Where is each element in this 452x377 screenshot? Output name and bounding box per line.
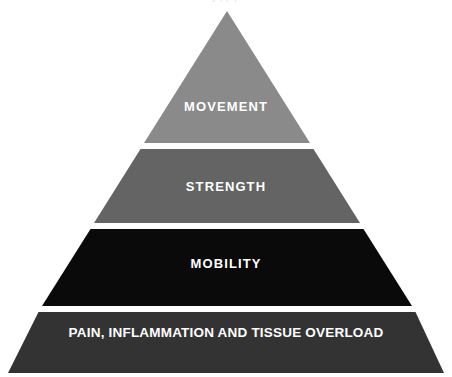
pyramid-label-mobility: MOBILITY — [0, 256, 452, 271]
pyramid-label-strength: STRENGTH — [0, 179, 452, 194]
pyramid-level-movement[interactable] — [144, 11, 310, 143]
pyramid-level-base[interactable] — [8, 312, 444, 373]
pyramid-label-movement: MOVEMENT — [0, 99, 452, 114]
pyramid-label-base: PAIN, INFLAMMATION AND TISSUE OVERLOAD — [0, 325, 452, 340]
pyramid-diagram-canvas: y pp p MOVEMENT STRENGTH MOBILITY PAIN, … — [0, 0, 452, 377]
